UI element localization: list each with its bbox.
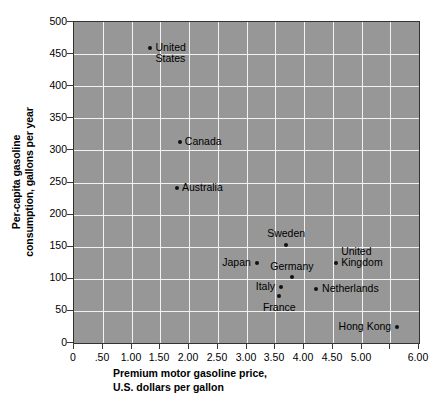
data-point [255,261,259,265]
data-point-label-line2: States [155,52,185,64]
x-axis-tick-mark [361,343,362,349]
y-axis-tick-mark [67,278,73,279]
data-point-label: UnitedStates [155,42,185,65]
data-point [284,243,288,247]
data-point [395,325,399,329]
x-axis-tick-mark [418,343,419,349]
horizontal-gridline [74,279,419,280]
data-point-label-line1: Canada [185,135,222,147]
y-axis-tick-labels: 050100150200250300350400450500 [38,0,67,405]
data-point-label-line2: Kingdom [341,256,382,268]
data-point-label: Sweden [267,228,305,240]
data-point-label-line1: Sweden [267,227,305,239]
data-point-label: Germany [270,261,313,273]
data-point-label-line1: Italy [256,280,275,292]
data-point-label-line1: Germany [270,260,313,272]
data-point-label-line1: France [263,301,296,313]
data-point-label: Australia [182,182,223,194]
x-axis-tick-mark [131,343,132,349]
x-axis-tick-mark [73,343,74,349]
plot-area: UnitedStatesCanadaAustraliaSwedenJapanGe… [73,21,420,344]
data-point-label: Japan [222,257,251,269]
data-point [175,186,179,190]
y-axis-tick-label: 450 [39,48,67,59]
data-point-label: Canada [185,136,222,148]
data-point-label: Netherlands [322,283,379,295]
data-point [290,275,294,279]
x-axis-tick-label: 6.00 [398,351,438,363]
y-axis-tick-label: 400 [39,80,67,91]
data-point-label-line1: Japan [222,256,251,268]
y-axis-tick-label: 150 [39,240,67,251]
horizontal-gridline [74,86,419,87]
y-axis-tick-mark [67,214,73,215]
data-point-label-line1: Hong Kong [339,320,392,332]
horizontal-gridline [74,118,419,119]
data-point-label: Italy [256,281,275,293]
y-axis-tick-mark [67,85,73,86]
y-axis-tick-label: 350 [39,112,67,123]
y-axis-tick-mark [67,310,73,311]
y-axis-tick-mark [67,149,73,150]
data-point [148,46,152,50]
data-point-label: UnitedKingdom [341,246,382,269]
x-axis-tick-mark [102,343,103,349]
horizontal-gridline [74,311,419,312]
y-axis-tick-label: 200 [39,208,67,219]
scatter-chart-figure: Per-capita gasoline consumption, gallons… [0,0,447,405]
horizontal-gridline [74,54,419,55]
y-axis-tick-label: 0 [39,337,67,348]
x-axis-tick-mark [188,343,189,349]
x-axis-tick-mark [303,343,304,349]
y-axis-tick-label: 50 [39,304,67,315]
data-point-label-line1: Netherlands [322,282,379,294]
horizontal-gridline [74,215,419,216]
horizontal-gridline [74,183,419,184]
x-axis-tick-mark [217,343,218,349]
x-axis-tick-mark [332,343,333,349]
x-axis-title-line2: U.S. dollars per gallon [113,381,413,395]
y-axis-tick-mark [67,117,73,118]
y-axis-title-line2: consumption, gallons per year [23,107,35,256]
x-axis-tick-mark [159,343,160,349]
data-point [277,294,281,298]
y-axis-tick-mark [67,53,73,54]
x-axis-tick-labels: 0.501.001.502.002.503.003.504.004.505.00… [0,351,447,365]
y-axis-tick-label: 300 [39,144,67,155]
y-axis-tick-mark [67,182,73,183]
y-axis-tick-label: 500 [39,16,67,27]
y-axis-title-line1: Per-capita gasoline [10,134,22,228]
data-point [314,287,318,291]
x-axis-tick-mark [274,343,275,349]
horizontal-gridline [74,150,419,151]
x-axis-title: Premium motor gasoline price, U.S. dolla… [113,367,413,394]
data-point-label-line1: Australia [182,181,223,193]
y-axis-tick-mark [67,21,73,22]
data-point [334,261,338,265]
data-point-label-line1: United [341,245,371,257]
data-point-label: France [263,302,296,314]
y-axis-tick-mark [67,246,73,247]
y-axis-tick-label: 100 [39,272,67,283]
y-axis-title: Per-capita gasoline consumption, gallons… [6,21,40,342]
x-axis-tick-label: 5.00 [341,351,381,363]
data-point-label-line1: United [155,41,185,53]
y-axis-tick-label: 250 [39,176,67,187]
data-point-label: Hong Kong [339,321,392,333]
x-axis-title-line1: Premium motor gasoline price, [113,367,413,381]
x-axis-tick-mark [246,343,247,349]
data-point [279,285,283,289]
x-axis-tick-mark [389,343,390,349]
data-point [178,140,182,144]
